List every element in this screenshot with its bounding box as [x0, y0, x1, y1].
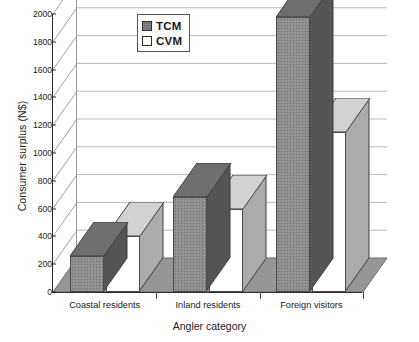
y-tick-label: 1800 [18, 37, 52, 47]
legend-item-tcm: TCM [142, 18, 182, 33]
y-tick-mark [52, 292, 56, 293]
y-tick-mark [52, 180, 56, 181]
x-axis-line [52, 292, 362, 293]
bar-front-face [70, 256, 104, 292]
y-tick-label: 0 [18, 287, 52, 297]
y-tick-label: 600 [18, 204, 52, 214]
bars-container [0, 0, 419, 342]
y-tick-mark [52, 264, 56, 265]
y-tick-marks [52, 0, 58, 342]
y-tick-mark [52, 125, 56, 126]
y-tick-mark [52, 236, 56, 237]
y-tick-mark [52, 41, 56, 42]
y-tick-label: 200 [18, 259, 52, 269]
y-tick-mark [52, 97, 56, 98]
bar-front-face [173, 197, 207, 292]
bar-side-face [309, 0, 335, 294]
y-tick-label: 800 [18, 176, 52, 186]
x-tick-label-1: Inland residents [176, 300, 241, 310]
y-tick-label: 1000 [18, 148, 52, 158]
bar-top-face [173, 163, 233, 199]
legend-label-cvm: CVM [156, 35, 182, 47]
y-tick-label: 1200 [18, 120, 52, 130]
y-tick-mark [52, 14, 56, 15]
x-axis-separator [156, 292, 157, 299]
y-tick-labels: 0200400600800100012001400160018002000 [14, 0, 52, 342]
legend: TCM CVM [137, 14, 190, 52]
y-tick-label: 1400 [18, 92, 52, 102]
tcm-swatch-icon [142, 21, 152, 31]
legend-item-cvm: CVM [142, 33, 182, 48]
x-axis-separator [363, 292, 364, 299]
bar-tcm-1 [173, 163, 207, 292]
x-axis-title: Angler category [0, 320, 419, 332]
y-tick-mark [52, 153, 56, 154]
bar-tcm-2 [276, 0, 310, 292]
legend-label-tcm: TCM [156, 20, 182, 32]
y-tick-mark [52, 208, 56, 209]
bar-front-face [276, 17, 310, 292]
y-tick-label: 2000 [18, 9, 52, 19]
y-tick-mark [52, 69, 56, 70]
bar-tcm-0 [70, 222, 104, 292]
x-axis-separator [260, 292, 261, 299]
y-tick-label: 400 [18, 231, 52, 241]
bar-chart: Consumer surplus (N$) 020040060080010001… [0, 0, 419, 342]
cvm-swatch-icon [142, 36, 152, 46]
x-tick-label-0: Coastal residents [69, 300, 140, 310]
bar-top-face [70, 222, 130, 258]
y-tick-label: 1600 [18, 65, 52, 75]
x-tick-label-2: Foreign visitors [280, 300, 342, 310]
